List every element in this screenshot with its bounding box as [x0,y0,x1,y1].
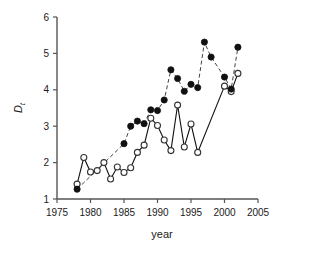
data-point-open [188,121,194,127]
data-point-open [168,148,174,154]
y-tick-label: 5 [43,48,49,59]
x-tick-label: 1980 [79,207,102,218]
x-tick-label: 1995 [180,207,203,218]
data-point-filled [161,97,167,103]
y-axis-title: Dt [12,102,27,113]
data-point-open [222,83,228,89]
data-point-filled [181,88,187,94]
data-point-open [81,155,87,161]
y-axis-title-base: D [12,105,24,113]
data-point-open [101,160,107,166]
data-point-open [94,168,100,174]
data-point-filled [134,118,140,124]
data-point-open [235,70,241,76]
data-point-filled [208,54,214,60]
y-axis-title-subscript: t [18,102,27,105]
y-tick-label: 6 [43,12,49,23]
y-axis-title-group: Dt [12,102,27,113]
data-point-open [114,164,120,170]
data-point-open [121,169,127,175]
data-point-open [128,165,134,171]
data-point-open [108,176,114,182]
data-point-filled [121,141,127,147]
x-tick-label: 1985 [113,207,136,218]
x-tick-label: 1975 [46,207,69,218]
y-tick-label: 3 [43,121,49,132]
data-point-filled [141,121,147,127]
data-point-filled [228,86,234,92]
y-tick-label: 4 [43,84,49,95]
x-tick-label: 2000 [213,207,236,218]
data-point-filled [168,67,174,73]
data-point-open [148,115,154,121]
data-point-open [195,149,201,155]
data-point-filled [221,74,227,80]
data-point-filled [154,107,160,113]
data-point-filled [235,44,241,50]
x-tick-label: 1990 [146,207,169,218]
x-tick-label: 2005 [247,207,270,218]
data-point-open [175,102,181,108]
data-point-open [141,142,147,148]
data-point-open [134,149,140,155]
data-point-filled [128,123,134,129]
y-tick-label: 1 [43,194,49,205]
data-point-open [181,144,187,150]
x-axis-title: year [151,228,173,240]
data-point-open [88,169,94,175]
chart-figure: 123456 1975198019851990199520002005 year… [0,0,321,253]
data-point-filled [195,85,201,91]
data-point-filled [175,75,181,81]
data-point-open [161,137,167,143]
data-point-open [155,122,161,128]
y-tick-labels: 123456 [43,12,49,205]
x-tick-labels: 1975198019851990199520002005 [46,207,270,218]
y-tick-label: 2 [43,157,49,168]
line-chart: 123456 1975198019851990199520002005 year… [0,0,321,253]
data-point-filled [188,81,194,87]
data-point-filled [148,107,154,113]
data-point-filled [201,39,207,45]
data-point-filled [74,186,80,192]
series-filled-points [74,70,241,187]
series-open-line [77,42,238,189]
